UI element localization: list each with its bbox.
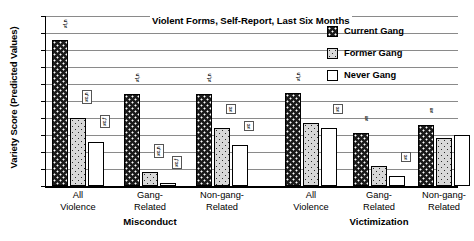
bar-former-group-3 [303, 123, 319, 186]
gridline [46, 101, 458, 102]
y-tick-mark [41, 67, 46, 68]
legend-swatch-current-icon [327, 26, 338, 37]
bar-current-group-0 [52, 40, 68, 186]
significance-label: ≠c,f [100, 115, 110, 128]
significance-label: ≠n [430, 106, 435, 114]
x-category-line: Related [399, 202, 474, 214]
significance-label: ≠c [401, 152, 411, 162]
y-tick-mark [41, 118, 46, 119]
bar-former-group-2 [214, 128, 230, 186]
significance-label: ≠c [226, 105, 236, 115]
significance-label: ≠f,n [208, 73, 213, 84]
x-axis-line [45, 186, 458, 188]
bar-current-group-4 [353, 133, 369, 186]
bar-never-group-5 [454, 135, 470, 186]
legend-swatch-never-icon [327, 70, 338, 81]
bar-former-group-4 [371, 166, 387, 186]
x-category-label-5: Non-gang-Related [399, 190, 474, 213]
bar-current-group-2 [196, 94, 212, 186]
significance-label: ≠f,n [297, 71, 302, 82]
y-tick-mark [41, 152, 46, 153]
y-axis-title: Variety Score (Predicted Values) [8, 23, 19, 173]
x-category-line: Related [177, 202, 267, 214]
significance-label: ≠c,n [82, 90, 92, 104]
legend-label: Never Gang [344, 70, 396, 80]
bar-never-group-0 [88, 142, 104, 186]
significance-label: ≠c [244, 122, 254, 132]
legend-item-never[interactable]: Never Gang [327, 64, 447, 86]
y-tick-mark [41, 50, 46, 51]
legend-item-former[interactable]: Former Gang [327, 42, 447, 64]
bar-never-group-1 [160, 183, 176, 186]
y-tick-mark [41, 135, 46, 136]
legend-swatch-former-icon [327, 48, 338, 59]
significance-label: ≠f,n [136, 73, 141, 84]
legend-label: Former Gang [344, 48, 402, 58]
bar-never-group-3 [321, 128, 337, 186]
gridline [46, 152, 458, 153]
significance-label: ≠c,n [154, 144, 164, 158]
significance-label: ≠c [333, 105, 343, 115]
significance-label: ≠f,n [64, 18, 69, 29]
x-supergroup-label-misconduct: Misconduct [80, 216, 220, 227]
y-tick-mark [41, 186, 46, 187]
x-category-label-2: Non-gang-Related [177, 190, 267, 213]
legend-label: Current Gang [344, 26, 404, 36]
bar-former-group-5 [436, 138, 452, 186]
bar-former-group-0 [70, 118, 86, 186]
significance-label: ≠c,f [172, 157, 182, 170]
x-category-line: Non-gang- [399, 190, 474, 202]
significance-label: ≠n [365, 115, 370, 123]
bar-never-group-4 [389, 176, 405, 186]
chart-legend: Current GangFormer GangNever Gang [327, 20, 447, 86]
y-tick-mark [41, 33, 46, 34]
y-tick-mark [41, 84, 46, 85]
x-category-line: Non-gang- [177, 190, 267, 202]
y-tick-mark [41, 101, 46, 102]
legend-item-current[interactable]: Current Gang [327, 20, 447, 42]
bar-former-group-1 [142, 172, 158, 186]
bar-current-group-1 [124, 94, 140, 186]
bar-current-group-3 [285, 93, 301, 187]
bar-never-group-2 [232, 145, 248, 186]
x-supergroup-label-victimization: Victimization [309, 216, 449, 227]
y-tick-mark [41, 16, 46, 17]
bar-current-group-5 [418, 125, 434, 186]
chart-title: Violent Forms, Self-Report, Last Six Mon… [150, 15, 352, 26]
y-tick-mark [41, 169, 46, 170]
gridline [46, 169, 458, 170]
gridline [46, 135, 458, 136]
